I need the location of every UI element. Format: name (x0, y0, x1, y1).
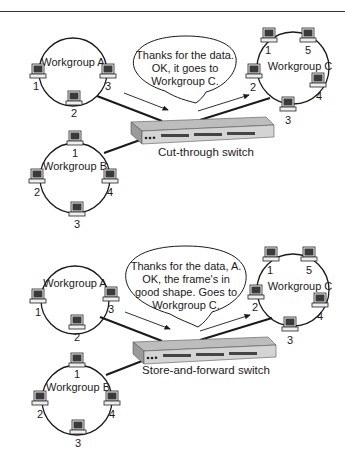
node-label: 5 (305, 44, 311, 56)
link-b-switch (106, 361, 142, 375)
workgroup-b-label: Workgroup B (46, 381, 110, 393)
workgroup-b: Workgroup B 1 2 3 4 (29, 131, 118, 230)
node-label: 2 (74, 331, 80, 343)
node-label: 4 (316, 90, 322, 102)
computer-icon (30, 289, 46, 303)
node-label: 1 (33, 80, 39, 92)
bubble-line: Thanks for the data. (136, 49, 234, 61)
computer-icon (69, 202, 85, 216)
node-label: 3 (105, 80, 111, 92)
computer-icon (282, 317, 298, 331)
bubble-line: OK, it goes to (152, 62, 219, 74)
link-c-switch (200, 98, 270, 120)
computer-icon (310, 73, 326, 87)
workgroup-b-label: Workgroup B (43, 160, 107, 172)
panel-cut-through: Workgroup A 1 2 3 Workgroup B 1 2 3 4 Wo… (29, 28, 332, 230)
node-label: 2 (250, 81, 256, 93)
network-switch-icon (133, 337, 276, 364)
computer-icon (261, 28, 277, 42)
node-label: 1 (35, 306, 41, 318)
node-label: 2 (252, 301, 258, 313)
speech-bubble: Thanks for the data. OK, it goes to Work… (133, 36, 236, 103)
link-a-switch (100, 317, 162, 341)
node-label: 1 (72, 147, 78, 159)
workgroup-c: Workgroup C 1 2 3 4 5 (246, 28, 332, 126)
workgroup-a-label: Workgroup A (41, 56, 105, 68)
bubble-line: OK, the frame's in (142, 273, 230, 285)
switch-label: Cut-through switch (158, 146, 254, 158)
link-b-switch (104, 140, 140, 153)
link-a-switch (97, 96, 162, 121)
network-switch-icon (131, 117, 274, 144)
bubble-line: Workgroup C. (151, 75, 219, 87)
switch-label: Store-and-forward switch (142, 364, 270, 376)
node-label: 1 (267, 264, 273, 276)
computer-icon (30, 64, 46, 78)
computer-icon (300, 28, 316, 42)
link-c-switch (200, 318, 272, 340)
arrow-icon (124, 93, 168, 110)
arrow-icon (198, 95, 249, 111)
panel-store-and-forward: Workgroup A 1 2 3 Workgroup B 1 2 3 4 Wo… (30, 246, 332, 449)
computer-icon (102, 169, 118, 183)
speech-bubble: Thanks for the data, A. OK, the frame's … (126, 246, 247, 327)
computer-icon (246, 64, 262, 78)
workgroup-a: Workgroup A 1 2 3 (30, 38, 116, 119)
node-label: 3 (74, 218, 80, 230)
node-label: 4 (107, 186, 113, 198)
computer-icon (69, 353, 85, 367)
node-label: 4 (317, 310, 323, 322)
bubble-line: Thanks for the data, A. (131, 260, 242, 272)
computer-icon (104, 391, 120, 405)
computer-icon (248, 285, 264, 299)
node-label: 2 (37, 408, 43, 420)
node-label: 4 (109, 408, 115, 420)
workgroup-c-label: Workgroup C (268, 280, 333, 292)
node-label: 3 (285, 114, 291, 126)
bubble-line: Workgroup C. (152, 299, 220, 311)
computer-icon (100, 64, 116, 78)
bubble-line: good shape. Goes to (135, 286, 237, 298)
node-label: 2 (71, 107, 77, 119)
node-label: 3 (108, 303, 114, 315)
computer-icon (29, 169, 45, 183)
workgroup-c-label: Workgroup C (268, 60, 333, 72)
workgroup-c: Workgroup C 1 2 3 4 5 (248, 247, 332, 346)
switching-diagram: Workgroup A 1 2 3 Workgroup B 1 2 3 4 Wo… (0, 0, 345, 467)
computer-icon (301, 247, 317, 261)
workgroup-b: Workgroup B 1 2 3 4 (32, 353, 120, 449)
computer-icon (103, 287, 119, 301)
computer-icon (67, 131, 83, 145)
computer-icon (70, 420, 86, 434)
node-label: 2 (34, 186, 40, 198)
arrow-icon (125, 312, 170, 329)
node-label: 3 (287, 334, 293, 346)
workgroup-a-label: Workgroup A (43, 277, 107, 289)
computer-icon (263, 247, 279, 261)
node-label: 5 (306, 264, 312, 276)
computer-icon (312, 293, 328, 307)
computer-icon (32, 391, 48, 405)
node-label: 1 (265, 44, 271, 56)
computer-icon (66, 91, 82, 105)
computer-icon (280, 97, 296, 111)
node-label: 1 (74, 368, 80, 380)
workgroup-a: Workgroup A 1 2 3 (30, 266, 119, 343)
node-label: 3 (75, 437, 81, 449)
computer-icon (69, 315, 85, 329)
